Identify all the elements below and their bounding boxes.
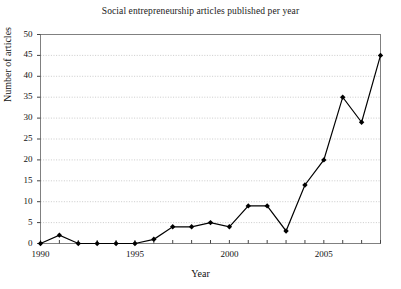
data-point-marker (113, 241, 118, 246)
y-tick-label: 30 (11, 112, 33, 122)
chart-figure: Social entrepreneurship articles publish… (0, 0, 401, 289)
plot-area (0, 0, 401, 289)
y-tick-label: 45 (11, 49, 33, 59)
y-tick-label: 5 (11, 217, 33, 227)
data-point-marker (57, 232, 62, 237)
y-tick-label: 35 (11, 91, 33, 101)
data-point-marker (378, 53, 383, 58)
y-tick-label: 50 (11, 29, 33, 39)
data-point-marker (38, 241, 43, 246)
x-tick-label: 2000 (209, 249, 249, 259)
y-tick-label: 10 (11, 196, 33, 206)
y-tick-label: 25 (11, 133, 33, 143)
y-tick-label: 20 (11, 154, 33, 164)
y-tick-label: 40 (11, 70, 33, 80)
data-point-marker (189, 224, 194, 229)
x-axis-title: Year (0, 268, 401, 279)
y-tick-label: 0 (11, 238, 33, 248)
y-tick-label: 15 (11, 175, 33, 185)
x-tick-label: 2005 (304, 249, 344, 259)
data-line (41, 55, 381, 243)
data-point-marker (132, 241, 137, 246)
data-point-marker (208, 220, 213, 225)
data-point-marker (94, 241, 99, 246)
x-tick-label: 1990 (21, 249, 61, 259)
x-tick-label: 1995 (115, 249, 155, 259)
data-point-marker (76, 241, 81, 246)
